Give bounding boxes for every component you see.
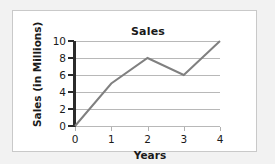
x-axis-tick-label: 1 (108, 133, 115, 145)
y-axis-tick-label: 4 (59, 86, 66, 98)
y-axis-tick (68, 40, 74, 42)
x-axis-tick (75, 127, 76, 131)
y-axis-tick-label: 10 (53, 35, 66, 47)
y-axis-tick (68, 57, 74, 59)
plot-area: 0246810 01234 (75, 41, 220, 126)
x-axis-tick-label: 0 (72, 133, 79, 145)
y-axis-tick (68, 91, 74, 93)
y-axis-title: Sales (in Millions) (31, 23, 43, 127)
x-axis-tick (148, 127, 149, 131)
x-axis-title: Years (75, 149, 225, 161)
y-axis-tick (68, 125, 74, 127)
x-axis-tick (184, 127, 185, 131)
x-axis-tick (111, 127, 112, 131)
x-axis-tick (220, 127, 221, 131)
x-axis-tick-label: 3 (180, 133, 187, 145)
x-axis-tick-label: 4 (217, 133, 224, 145)
y-axis-tick-label: 6 (59, 69, 66, 81)
y-axis-tick-label: 2 (59, 103, 66, 115)
y-axis-tick-label: 8 (59, 52, 66, 64)
y-axis-tick (68, 108, 74, 110)
chart-figure: Sales Sales (in Millions) Years 0246810 … (0, 0, 275, 164)
y-axis-tick (68, 74, 74, 76)
chart-title: Sales (73, 25, 223, 38)
y-axis-tick-label: 0 (59, 120, 66, 132)
chart-card: Sales Sales (in Millions) Years 0246810 … (12, 10, 257, 152)
series-polyline (75, 41, 220, 126)
x-axis-tick-label: 2 (144, 133, 151, 145)
sales-line-series (75, 41, 220, 126)
